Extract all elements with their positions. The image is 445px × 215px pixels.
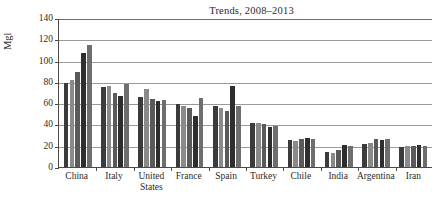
bar-group [171,19,208,167]
bar [273,126,278,168]
x-tick-label-line: United [133,171,170,182]
bar [81,53,86,167]
x-tick-label: Turkey [245,171,282,201]
bar [176,104,181,167]
bar [213,106,218,167]
bar [118,96,123,167]
bar [374,139,379,167]
x-tick-label-line: Iran [395,171,432,182]
bar [87,45,92,167]
bar [293,141,298,167]
x-tick-label: Argentina [357,171,395,201]
bar [236,106,241,167]
bar [423,146,428,167]
bar [181,106,186,167]
y-tick-label: 140 [23,13,53,23]
bar [385,139,390,167]
x-axis-labels: ChinaItalyUnitedStatesFranceSpainTurkeyC… [58,171,432,201]
bar [342,145,347,167]
x-tick-label: Iran [395,171,432,201]
y-tick-label: 0 [23,162,53,172]
bar [199,98,204,167]
x-tick-label-line: Italy [95,171,132,182]
bar-group [320,19,357,167]
bar [64,83,69,167]
bar [305,138,310,167]
x-tick-label-line: Spain [207,171,244,182]
bar-group [245,19,282,167]
bar [331,153,336,167]
bar [417,145,422,167]
x-tick-label-line: Argentina [357,171,395,182]
x-tick-label: Italy [95,171,132,201]
chart-figure: Trends, 2008–2013 Mgl 020406080100120140… [0,0,445,215]
bar [156,101,161,167]
x-tick-label: China [58,171,95,201]
x-tick-label: Chile [282,171,319,201]
bar [162,100,167,167]
bar-group [134,19,171,167]
bar [101,87,106,167]
y-tick-label: 60 [23,98,53,108]
bar [368,143,373,167]
x-tick-label: France [170,171,207,201]
x-tick-label: Spain [207,171,244,201]
y-tick-label: 40 [23,119,53,129]
y-tick-mark [55,168,59,169]
x-tick-label-line: Turkey [245,171,282,182]
chart-title: Trends, 2008–2013 [0,5,445,16]
x-tick-label: India [320,171,357,201]
bar-group [357,19,394,167]
bar [336,150,341,167]
bar [107,86,112,167]
bar [225,111,230,167]
bar [325,152,330,167]
bar-group [208,19,245,167]
bar [299,139,304,167]
bar [138,97,143,167]
bar [268,127,273,167]
plot-area: 020406080100120140 [58,19,432,168]
y-tick-label: 80 [23,77,53,87]
x-tick-label-line: China [58,171,95,182]
bar-group [59,19,96,167]
bar [187,108,192,167]
bar [75,72,80,167]
x-tick-label: UnitedStates [133,171,170,201]
y-tick-label: 120 [23,34,53,44]
bar-group [395,19,432,167]
x-tick-label-line: Chile [282,171,319,182]
bar [70,80,75,167]
bar [288,140,293,167]
bar [193,116,198,167]
bar [150,99,155,167]
bar [113,93,118,168]
y-axis-label: Mgl [2,32,13,50]
x-tick-label-line: India [320,171,357,182]
bar [380,140,385,167]
bar-group [283,19,320,167]
bar [362,144,367,167]
bar [144,89,149,167]
bar [262,124,267,167]
y-tick-label: 100 [23,56,53,66]
bar [256,123,261,167]
bar [348,146,353,167]
bar [399,147,404,167]
bar-groups [59,19,432,167]
bar [250,123,255,167]
x-tick-label-line: France [170,171,207,182]
bar [230,86,235,167]
x-tick-label-line: States [133,182,170,193]
bar [124,84,129,167]
bar [311,139,316,167]
bar [405,146,410,167]
bar-group [96,19,133,167]
bar [219,108,224,167]
bar [411,146,416,167]
y-tick-label: 20 [23,141,53,151]
